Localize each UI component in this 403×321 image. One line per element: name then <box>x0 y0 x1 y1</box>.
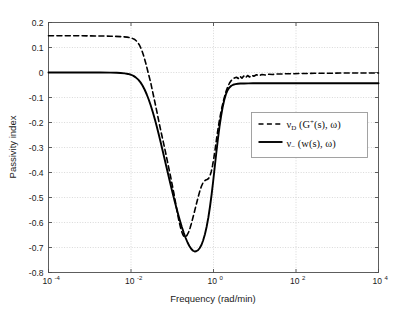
x-tick-label: 10 <box>373 276 383 286</box>
x-tick-exponent: -2 <box>137 275 143 281</box>
y-tick-label: -0.7 <box>29 243 44 253</box>
x-tick-label: 10 <box>208 276 218 286</box>
legend-box: νD (G+(s), ω)ν− (w(s), ω) <box>252 113 368 158</box>
y-tick-label: 0.1 <box>32 43 44 53</box>
x-tick-label: 10 <box>125 276 135 286</box>
y-tick-label: -0.1 <box>29 93 44 103</box>
y-tick-label: -0.6 <box>29 218 44 228</box>
x-tick-exponent: -4 <box>55 275 61 281</box>
y-tick-label: -0.4 <box>29 168 44 178</box>
chart-figure: 0.20.10-0.1-0.2-0.3-0.4-0.5-0.6-0.7-0.8 … <box>0 0 403 321</box>
x-tick-label: 10 <box>43 276 53 286</box>
y-tick-label: -0.2 <box>29 118 44 128</box>
passivity-index-line-chart: 0.20.10-0.1-0.2-0.3-0.4-0.5-0.6-0.7-0.8 … <box>0 0 403 321</box>
y-tick-label: -0.3 <box>29 143 44 153</box>
y-tick-label: 0 <box>39 68 44 78</box>
x-tick-label: 10 <box>290 276 300 286</box>
y-axis-title: Passivity index <box>7 115 18 178</box>
x-axis-title: Frequency (rad/min) <box>170 293 256 304</box>
y-tick-label: 0.2 <box>32 18 44 28</box>
y-tick-label: -0.5 <box>29 193 44 203</box>
